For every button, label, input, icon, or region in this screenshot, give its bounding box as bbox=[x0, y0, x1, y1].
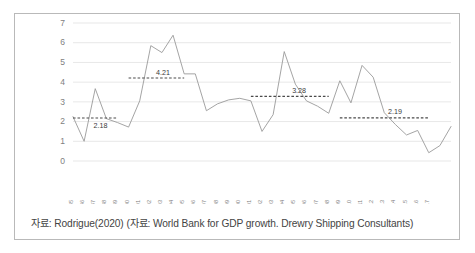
figure-container: 01234567 1985198619871988198919901991199… bbox=[14, 13, 460, 240]
average-2000-2008-label: 3.28 bbox=[292, 86, 306, 95]
source-caption: 자료: Rodrigue(2020) (자료: World Bank for G… bbox=[31, 215, 413, 230]
chart-plot-area: 01234567 1985198619871988198919901991199… bbox=[15, 14, 459, 204]
data-series-lines bbox=[73, 35, 451, 153]
y-tick-label: 0 bbox=[60, 156, 65, 166]
average-1990-1999-label: 4.21 bbox=[156, 68, 170, 77]
y-tick-label: 7 bbox=[60, 18, 65, 28]
line-chart: 01234567 1985198619871988198919901991199… bbox=[15, 14, 459, 204]
average-2009-2017-label: 2.19 bbox=[388, 107, 402, 116]
y-tick-label: 2 bbox=[60, 116, 65, 126]
series-line-growth bbox=[73, 35, 451, 153]
y-axis-tick-labels: 01234567 bbox=[60, 18, 65, 166]
y-tick-label: 5 bbox=[60, 57, 65, 67]
average-annotations: 2.184.213.282.19 bbox=[73, 68, 429, 130]
y-tick-label: 3 bbox=[60, 97, 65, 107]
y-tick-label: 4 bbox=[60, 77, 65, 87]
y-tick-label: 6 bbox=[60, 37, 65, 47]
caption-row: 자료: Rodrigue(2020) (자료: World Bank for G… bbox=[15, 204, 459, 240]
gridlines bbox=[73, 23, 451, 161]
y-tick-label: 1 bbox=[60, 136, 65, 146]
average-1985-1989-label: 2.18 bbox=[94, 121, 108, 130]
